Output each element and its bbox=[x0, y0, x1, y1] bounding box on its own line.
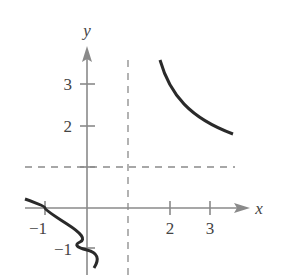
svg-text:3: 3 bbox=[64, 75, 73, 94]
chart: −1 2 3 3 2 −1 y x bbox=[0, 0, 281, 279]
x-axis-label: x bbox=[254, 199, 263, 218]
svg-text:2: 2 bbox=[64, 117, 73, 136]
svg-text:2: 2 bbox=[166, 219, 175, 238]
y-axis-label: y bbox=[81, 21, 91, 40]
svg-text:−1: −1 bbox=[29, 219, 47, 238]
curves bbox=[25, 60, 233, 268]
right-branch bbox=[160, 60, 233, 134]
svg-text:−1: −1 bbox=[54, 240, 72, 259]
svg-text:3: 3 bbox=[206, 219, 215, 238]
